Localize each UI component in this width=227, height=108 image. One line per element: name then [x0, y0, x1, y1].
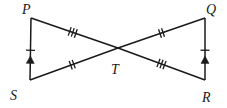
arrowhead-qr — [201, 56, 209, 64]
vertex-label-t: T — [111, 62, 120, 77]
segment-ps — [30, 18, 31, 80]
vertex-label-p: P — [21, 2, 31, 17]
geometry-figure: PQSRT — [0, 0, 227, 108]
vertex-labels-layer: PQSRT — [10, 2, 216, 105]
vertex-label-s: S — [10, 88, 17, 103]
arrowhead-ps — [26, 56, 34, 64]
tick-group-pt — [68, 27, 77, 38]
segment-tq — [118, 18, 205, 48]
vertex-label-q: Q — [206, 2, 216, 17]
figure-canvas: PQSRT — [0, 0, 227, 108]
segment-pt — [31, 18, 118, 48]
vertex-label-r: R — [201, 90, 211, 105]
tick-group-tr — [157, 59, 166, 70]
